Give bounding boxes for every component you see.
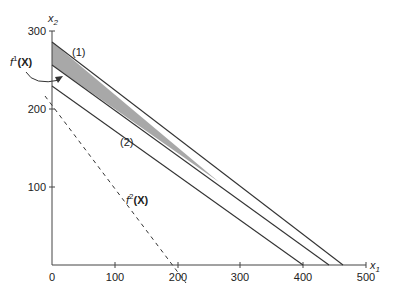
y-tick-300: 300 xyxy=(28,25,46,37)
label-f2: f2(X) xyxy=(126,192,149,206)
line-2 xyxy=(52,86,303,265)
y-axis-label: x2 xyxy=(47,12,59,27)
f1-arrowhead xyxy=(55,76,63,83)
label-line-2: (2) xyxy=(120,136,133,148)
line-f2-dashed xyxy=(45,96,186,283)
label-line-1: (1) xyxy=(72,46,85,58)
label-f1: f1(X) xyxy=(10,54,33,68)
y-tick-200: 200 xyxy=(28,103,46,115)
x-tick-400: 400 xyxy=(294,271,312,283)
x-tick-500: 500 xyxy=(357,271,375,283)
x-tick-300: 300 xyxy=(231,271,249,283)
x-tick-0: 0 xyxy=(49,271,55,283)
x-tick-200: 200 xyxy=(169,271,187,283)
chart: 0 100 200 300 400 500 100 200 300 x1 x2 … xyxy=(0,0,394,297)
y-tick-100: 100 xyxy=(28,181,46,193)
shaded-feasible-band xyxy=(52,42,219,182)
f1-arrow xyxy=(26,72,60,82)
line-shaded-lower xyxy=(52,65,329,265)
x-tick-100: 100 xyxy=(106,271,124,283)
line-1-upper xyxy=(52,42,343,265)
